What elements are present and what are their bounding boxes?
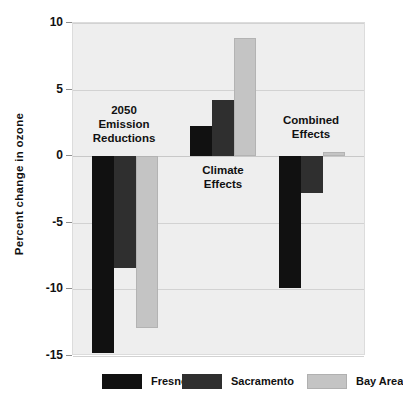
bar-sacramento-1 bbox=[114, 156, 136, 268]
legend-swatch-sacramento bbox=[182, 374, 222, 389]
bar-fresno-2 bbox=[190, 126, 212, 157]
bar-sacramento-2 bbox=[212, 100, 234, 156]
y-axis-tick-label: 5 bbox=[12, 82, 72, 96]
category-label-3: Combined Effects bbox=[262, 113, 360, 141]
legend-label: Bay Area bbox=[356, 375, 403, 387]
gridline bbox=[73, 23, 364, 24]
gridline bbox=[73, 356, 364, 357]
gridline bbox=[73, 90, 364, 91]
y-axis-tick-label: 10 bbox=[12, 15, 72, 29]
legend-swatch-fresno bbox=[102, 374, 142, 389]
y-axis-tick-label: 0 bbox=[12, 148, 72, 162]
y-axis-tick-labels: 1050-5-10-15 bbox=[0, 0, 72, 412]
legend-swatch-bayarea bbox=[307, 374, 347, 389]
gridline bbox=[73, 289, 364, 290]
category-label-2: Climate Effects bbox=[178, 163, 268, 191]
legend-item-fresno[interactable]: Fresno bbox=[102, 368, 188, 394]
category-label-1: 2050 Emission Reductions bbox=[78, 103, 170, 145]
y-axis-tick-label: -15 bbox=[12, 348, 72, 362]
bar-bay-area-1 bbox=[136, 156, 158, 328]
legend-item-sacramento[interactable]: Sacramento bbox=[182, 368, 294, 394]
legend-item-bay-area[interactable]: Bay Area bbox=[307, 368, 403, 394]
chart-legend: FresnoSacramentoBay Area bbox=[72, 368, 392, 398]
bar-sacramento-3 bbox=[301, 156, 323, 193]
y-axis-tick-label: -5 bbox=[12, 215, 72, 229]
legend-label: Sacramento bbox=[231, 375, 294, 387]
y-axis-tick-label: -10 bbox=[12, 281, 72, 295]
bar-fresno-3 bbox=[279, 156, 301, 288]
bar-bay-area-3 bbox=[323, 152, 345, 156]
bar-bay-area-2 bbox=[234, 38, 256, 157]
bar-fresno-1 bbox=[92, 156, 114, 353]
